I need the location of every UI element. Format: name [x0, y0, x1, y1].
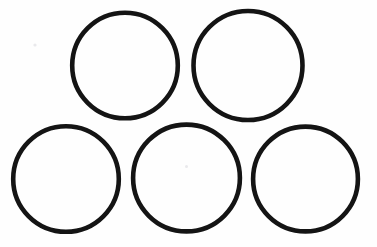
- image-canvas: five-circles-arrangement: [0, 0, 377, 247]
- speck-center-bottom-middle: [185, 165, 188, 168]
- five-circles-figure: [0, 0, 377, 247]
- speck-stray-upper-left: [33, 43, 36, 46]
